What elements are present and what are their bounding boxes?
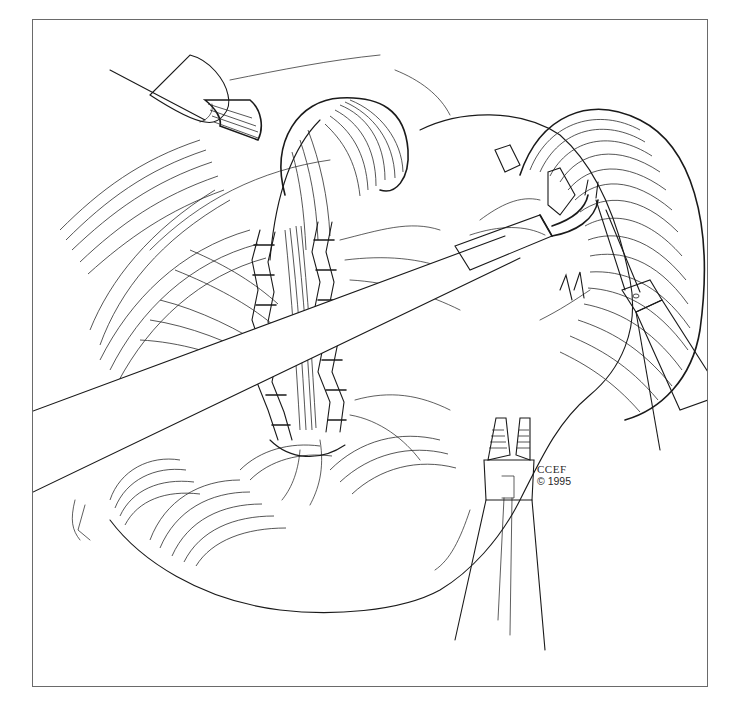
clip-applier-bottom xyxy=(435,418,545,650)
sketch-marks xyxy=(72,500,90,540)
surgical-illustration xyxy=(0,0,734,703)
organ-right-lobe xyxy=(520,109,704,420)
organ-lower-hatching xyxy=(110,436,456,566)
organ xyxy=(90,55,704,613)
credit-initials: CCEF xyxy=(537,463,571,475)
copyright-credit: CCEF © 1995 xyxy=(537,463,571,487)
tissue-fold xyxy=(230,55,450,260)
tissue-clips xyxy=(495,145,584,300)
credit-year: © 1995 xyxy=(537,475,571,487)
grasper-top-left xyxy=(60,55,261,274)
vessels xyxy=(282,199,590,505)
grasper-right xyxy=(596,200,708,450)
